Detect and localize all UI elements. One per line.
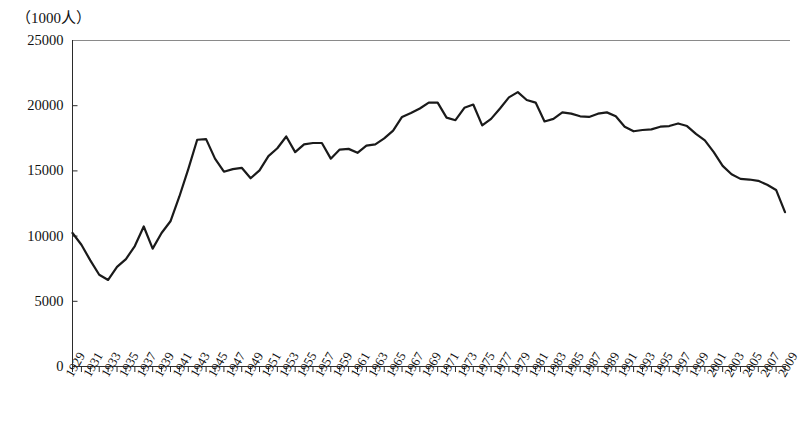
y-axis-tick-label: 20000 xyxy=(27,97,63,113)
y-axis-tick-label: 15000 xyxy=(27,162,63,178)
x-axis-tick-labels: 1929193119331935193719391941194319451947… xyxy=(62,349,800,379)
chart-container: （1000人） 0500010000150002000025000 192919… xyxy=(0,0,807,423)
y-axis-tick-label: 10000 xyxy=(27,228,63,244)
y-axis-tick-label: 25000 xyxy=(27,32,63,48)
x-axis-tick-label: 2009 xyxy=(775,349,801,379)
data-series-line xyxy=(73,92,786,280)
y-axis-tick-labels: 0500010000150002000025000 xyxy=(27,32,63,374)
line-chart-svg: 0500010000150002000025000 19291931193319… xyxy=(0,0,807,423)
y-axis-tick-label: 5000 xyxy=(35,293,64,309)
y-axis-ticks xyxy=(73,106,78,302)
